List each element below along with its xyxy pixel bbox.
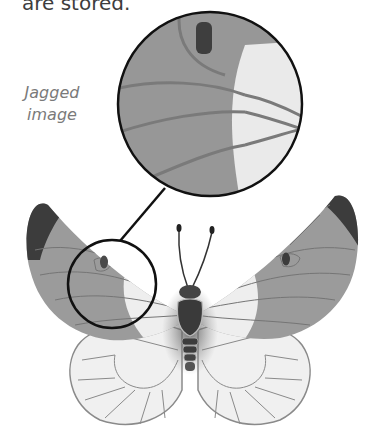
connector-line	[120, 188, 165, 241]
zoomed-pixelated-view	[110, 8, 320, 208]
butterfly-body	[162, 224, 218, 375]
butterfly-illustration	[0, 0, 376, 436]
